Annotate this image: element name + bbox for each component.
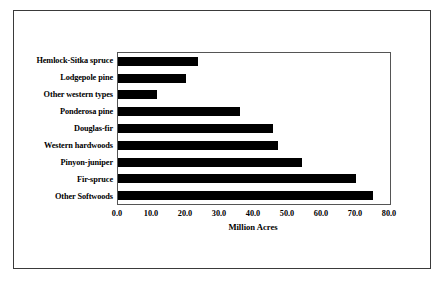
bar-row xyxy=(118,137,390,154)
x-tick-label: 10.0 xyxy=(144,209,159,218)
category-label: Other western types xyxy=(8,86,116,103)
bar xyxy=(118,174,356,183)
bar xyxy=(118,191,373,200)
bar xyxy=(118,74,186,83)
category-label: Douglas-fir xyxy=(8,120,116,137)
x-tick-label: 60.0 xyxy=(314,209,329,218)
category-label: Ponderosa pine xyxy=(8,103,116,120)
x-axis-title: Million Acres xyxy=(117,222,389,232)
bar-row xyxy=(118,187,390,204)
x-tick-label: 30.0 xyxy=(212,209,227,218)
bar xyxy=(118,124,273,133)
bar-row xyxy=(118,103,390,120)
x-tick-label: 70.0 xyxy=(348,209,363,218)
x-tick-label: 50.0 xyxy=(280,209,295,218)
bar xyxy=(118,57,198,66)
category-label: Other Softwoods xyxy=(8,188,116,205)
category-label: Western hardwoods xyxy=(8,137,116,154)
category-label: Pinyon-juniper xyxy=(8,154,116,171)
x-axis-ticks: 0.010.020.030.040.050.060.070.080.0 xyxy=(117,206,389,220)
horizontal-bar-chart: Hemlock-Sitka spruceLodgepole pineOther … xyxy=(0,0,446,281)
bars-container xyxy=(118,53,390,204)
bar-row xyxy=(118,87,390,104)
bar xyxy=(118,90,157,99)
category-label: Lodgepole pine xyxy=(8,69,116,86)
bar-row xyxy=(118,120,390,137)
bar xyxy=(118,141,278,150)
x-tick-label: 40.0 xyxy=(246,209,261,218)
plot-area xyxy=(117,52,391,205)
category-label: Fir-spruce xyxy=(8,171,116,188)
bar xyxy=(118,107,240,116)
bar-row xyxy=(118,154,390,171)
category-label: Hemlock-Sitka spruce xyxy=(8,52,116,69)
bar-row xyxy=(118,70,390,87)
bar-row xyxy=(118,170,390,187)
x-tick-label: 80.0 xyxy=(382,209,397,218)
bar-row xyxy=(118,53,390,70)
x-tick-label: 20.0 xyxy=(178,209,193,218)
x-tick-label: 0.0 xyxy=(112,209,122,218)
category-axis: Hemlock-Sitka spruceLodgepole pineOther … xyxy=(8,52,116,205)
bar xyxy=(118,158,302,167)
